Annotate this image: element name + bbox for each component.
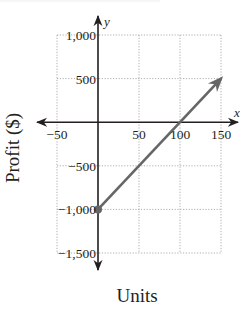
y-axis-title: Profit ($) <box>2 113 24 183</box>
y-tick-label: −500 <box>68 159 96 174</box>
y-tick-label: −1,500 <box>58 246 96 261</box>
x-tick-label: 150 <box>211 127 232 142</box>
y-tick-label: 1,000 <box>66 28 97 43</box>
x-axis-variable: x <box>233 105 240 120</box>
x-tick-label: 50 <box>132 127 146 142</box>
series-line-profit <box>98 79 221 210</box>
x-tick-label: 100 <box>170 127 191 142</box>
grid <box>57 35 221 253</box>
labels: Profit ($) Units x y −50501001501,000500… <box>2 14 240 306</box>
y-tick-label: −1,000 <box>58 202 96 217</box>
x-axis-title: Units <box>116 285 157 306</box>
y-tick-label: 500 <box>76 72 97 87</box>
series <box>94 79 221 214</box>
chart: Profit ($) Units x y −50501001501,000500… <box>0 0 243 311</box>
y-axis-variable: y <box>102 14 110 29</box>
x-tick-label: −50 <box>46 127 67 142</box>
axes <box>37 16 238 270</box>
